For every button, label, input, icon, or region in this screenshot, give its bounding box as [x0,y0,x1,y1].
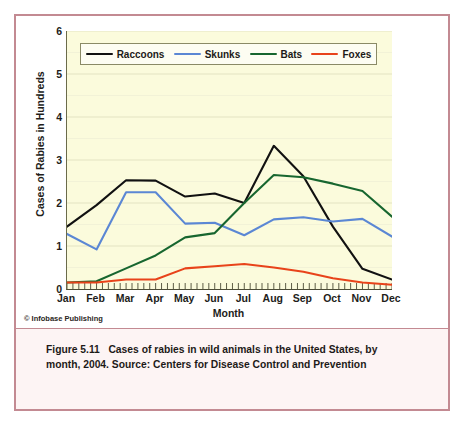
x-axis-tick-labels: JanFebMarAprMayJunJulAugSepOctNovDec [66,292,391,308]
figure-caption-box: Figure 5.11 Cases of rabies in wild anim… [16,328,448,409]
y-axis-tick-4: 4 [48,112,62,123]
legend-swatch-bats [250,53,277,56]
legend-label-foxes: Foxes [342,49,371,60]
legend-swatch-raccoons [86,53,113,56]
y-axis-tick-1: 1 [48,241,62,252]
y-axis-tick-3: 3 [48,155,62,166]
legend-item-foxes: Foxes [311,49,371,60]
legend-item-bats: Bats [250,49,303,60]
legend-swatch-skunks [174,53,201,56]
publisher-credit: © Infobase Publishing [24,314,103,323]
legend-swatch-foxes [311,53,338,56]
figure-caption-label: Figure 5.11 [46,344,100,355]
legend-item-skunks: Skunks [174,49,241,60]
legend-label-skunks: Skunks [205,49,241,60]
y-axis-tick-labels: 0123456 [44,31,62,289]
x-axis-title: Month [66,307,391,319]
x-axis-tick-dec: Dec [371,292,411,305]
legend-label-raccoons: Raccoons [117,49,165,60]
plot-svg [67,31,392,289]
figure-frame: Cases of Rabies in Hundreds 0123456 JanF… [14,14,450,411]
figure-caption: Figure 5.11 Cases of rabies in wild anim… [46,343,396,373]
y-axis-tick-6: 6 [48,26,62,37]
y-axis-tick-2: 2 [48,198,62,209]
chart-legend: RaccoonsSkunksBatsFoxes [80,43,377,65]
plot-area [66,31,392,290]
legend-label-bats: Bats [281,49,303,60]
chart-region: Cases of Rabies in Hundreds 0123456 JanF… [16,16,448,328]
y-axis-tick-5: 5 [48,69,62,80]
legend-item-raccoons: Raccoons [86,49,165,60]
